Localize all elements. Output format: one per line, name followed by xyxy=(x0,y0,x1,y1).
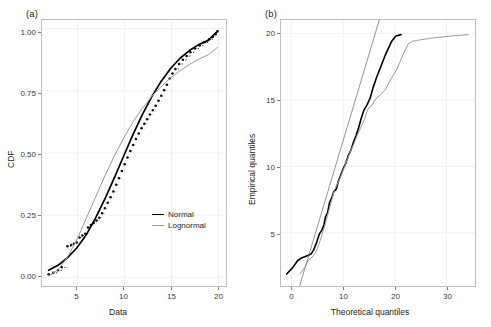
panel-b-xtick-10: 10 xyxy=(329,292,358,301)
panel-a-ytick-0.75: 0.75 xyxy=(8,89,36,98)
panel-a-xtick-10: 10 xyxy=(109,292,138,301)
panel-b-plot-area xyxy=(280,19,476,287)
panel-a-xtick-15: 15 xyxy=(157,292,186,301)
legend-label-lognormal: Lognormal xyxy=(168,220,206,231)
legend-item-normal[interactable]: Normal xyxy=(152,209,206,220)
panel-b-xtick-0: 0 xyxy=(277,292,306,301)
panel-a-xtick-mark-0 xyxy=(76,287,77,290)
series-lognormal-qq-line xyxy=(300,35,468,274)
panel-a-ytick-0.00: 0.00 xyxy=(8,272,36,281)
panel-a-xtick-20: 20 xyxy=(204,292,233,301)
panel-b-ytick-5: 5 xyxy=(249,230,275,239)
panel-a-legend: Normal Lognormal xyxy=(152,209,206,231)
panel-b-xtick-mark-2 xyxy=(395,287,396,290)
figure-root: (a) 1.00 0.75 0.50 0.25 0.00 5 10 15 20 … xyxy=(0,0,491,327)
panel-a-xtick-mark-2 xyxy=(171,287,172,290)
panel-a-label: (a) xyxy=(26,8,38,19)
panel-a-plot-area xyxy=(41,19,227,287)
panel-b-xtick-mark-1 xyxy=(343,287,344,290)
series-reference-line-line xyxy=(300,20,380,286)
panel-b-xtick-30: 30 xyxy=(433,292,462,301)
panel-a-ytick-0.25: 0.25 xyxy=(8,211,36,220)
panel-b: (b) 20 15 10 5 0 10 20 30 Theoretical qu… xyxy=(245,0,491,327)
series-normal-qq-line xyxy=(287,35,401,274)
panel-a-xtick-5: 5 xyxy=(62,292,91,301)
panel-a-xtick-mark-3 xyxy=(218,287,219,290)
panel-b-plot-svg xyxy=(281,20,475,286)
panel-a-xtick-mark-1 xyxy=(123,287,124,290)
legend-item-lognormal[interactable]: Lognormal xyxy=(152,220,206,231)
series-lognormal-line xyxy=(49,47,218,276)
panel-b-xtick-mark-3 xyxy=(447,287,448,290)
panel-b-xaxis-title: Theoretical quantiles xyxy=(331,307,409,317)
panel-b-xtick-20: 20 xyxy=(381,292,410,301)
panel-b-xtick-mark-0 xyxy=(291,287,292,290)
panel-a: (a) 1.00 0.75 0.50 0.25 0.00 5 10 15 20 … xyxy=(0,0,245,327)
panel-a-plot-svg xyxy=(42,20,226,286)
panel-b-label: (b) xyxy=(265,8,277,19)
legend-label-normal: Normal xyxy=(168,209,194,220)
panel-b-ytick-20: 20 xyxy=(249,29,275,38)
panel-a-yaxis-title: CDF xyxy=(6,151,16,168)
panel-b-ytick-15: 15 xyxy=(249,96,275,105)
panel-a-xaxis-title: Data xyxy=(109,307,127,317)
panel-b-yaxis-title: Empirical quantiles xyxy=(247,134,257,205)
panel-a-ytick-1.00: 1.00 xyxy=(8,28,36,37)
legend-line-normal-icon xyxy=(152,214,164,215)
gridlines xyxy=(281,20,475,286)
legend-line-lognormal-icon xyxy=(152,225,164,226)
